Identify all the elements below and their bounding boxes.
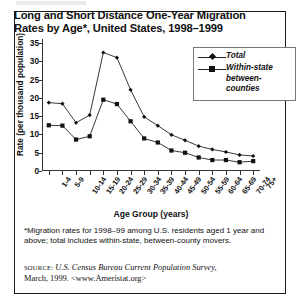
data-point-marker — [88, 113, 92, 117]
x-tick-label: 5-9 — [73, 175, 87, 189]
data-point-marker — [74, 137, 78, 141]
source-citation-line2: March, 1999. <www.Ameristat.org> — [24, 274, 146, 283]
chart-legend: Total Within-statebetween-counties — [193, 47, 296, 101]
data-point-marker — [197, 155, 201, 159]
y-tick-mark — [39, 171, 42, 172]
source-label: SOURCE: — [24, 264, 53, 271]
data-point-marker — [156, 140, 160, 144]
data-point-marker — [128, 119, 132, 123]
y-tick-label: 30 — [30, 57, 39, 65]
series-line — [49, 100, 253, 163]
data-point-marker — [183, 151, 187, 155]
data-point-marker — [210, 147, 214, 151]
page-artifact — [16, 1, 86, 5]
legend-label-within-state: Within-statebetween-counties — [226, 63, 291, 95]
source-citation: U.S. Census Bureau Current Population Su… — [55, 263, 216, 272]
data-point-marker — [47, 123, 51, 127]
y-tick-label: 15 — [30, 112, 39, 120]
legend-item-total: Total — [198, 51, 291, 62]
y-tick-label: 25 — [30, 75, 39, 83]
chart: Rate (per thousand population) 051015202… — [6, 41, 266, 211]
data-point-marker — [115, 56, 119, 60]
x-axis-label: Age Group (years) — [42, 209, 260, 219]
data-point-marker — [142, 136, 146, 140]
data-point-marker — [237, 160, 241, 164]
figure-source: SOURCE: U.S. Census Bureau Current Popul… — [24, 262, 274, 284]
x-tick-label: 50-54 — [199, 175, 217, 196]
data-point-marker — [101, 98, 105, 102]
y-axis-label: Rate (per thousand population) — [15, 52, 27, 156]
data-point-marker — [197, 144, 201, 148]
square-marker-icon — [198, 64, 226, 74]
x-tick-label: 10-14 — [90, 175, 108, 196]
data-point-marker — [115, 102, 119, 106]
data-point-marker — [237, 153, 241, 157]
page-title: Long and Short Distance One-Year Migrati… — [14, 9, 260, 36]
data-point-marker — [183, 138, 187, 142]
figure-footnote: *Migration rates for 1998–99 among U.S. … — [24, 226, 274, 247]
diamond-marker-icon — [198, 52, 226, 62]
data-point-marker — [169, 148, 173, 152]
y-tick-label: 20 — [30, 94, 39, 102]
data-point-marker — [251, 159, 255, 163]
legend-label-total: Total — [226, 51, 245, 62]
data-point-marker — [224, 158, 228, 162]
x-tick-label: 1-4 — [59, 175, 73, 189]
data-point-marker — [224, 150, 228, 154]
data-point-marker — [128, 88, 132, 92]
y-tick-label: 10 — [30, 130, 39, 138]
data-point-marker — [101, 50, 105, 54]
legend-item-within-state: Within-statebetween-counties — [198, 63, 291, 95]
y-tick-label: 35 — [30, 39, 39, 47]
data-point-marker — [88, 134, 92, 138]
data-point-marker — [251, 154, 255, 158]
data-point-marker — [47, 101, 51, 105]
plot-area: 05101520253035 Total Within-statebetween… — [42, 43, 260, 171]
data-point-marker — [60, 124, 64, 128]
data-point-marker — [210, 158, 214, 162]
